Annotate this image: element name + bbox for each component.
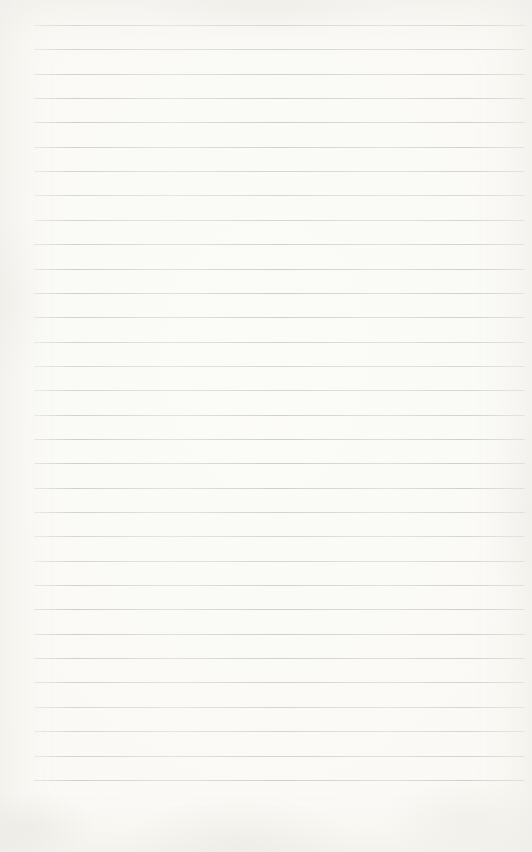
ruled-line (34, 293, 525, 294)
ruled-line (34, 122, 525, 123)
ruled-line (34, 147, 525, 148)
ruled-line (34, 731, 525, 732)
ruled-line (34, 780, 525, 781)
ruled-line (34, 707, 525, 708)
ruled-line (34, 269, 525, 270)
ruled-line (34, 634, 525, 635)
ruled-line (34, 439, 525, 440)
ruled-line (34, 317, 525, 318)
ruled-line (34, 366, 525, 367)
ruled-line (34, 49, 525, 50)
ruled-line (34, 74, 525, 75)
ruled-line (34, 609, 525, 610)
ruled-line (34, 561, 525, 562)
ruled-line (34, 195, 525, 196)
ruled-line (34, 658, 525, 659)
ruled-line (34, 488, 525, 489)
ruled-lines (0, 0, 532, 852)
ruled-line (34, 98, 525, 99)
ruled-line (34, 415, 525, 416)
notebook-page (0, 0, 532, 852)
ruled-line (34, 463, 525, 464)
ruled-line (34, 585, 525, 586)
ruled-line (34, 25, 525, 26)
ruled-line (34, 171, 525, 172)
ruled-line (34, 756, 525, 757)
ruled-line (34, 682, 525, 683)
ruled-line (34, 390, 525, 391)
ruled-line (34, 536, 525, 537)
ruled-line (34, 244, 525, 245)
ruled-line (34, 220, 525, 221)
ruled-line (34, 342, 525, 343)
ruled-line (34, 512, 525, 513)
